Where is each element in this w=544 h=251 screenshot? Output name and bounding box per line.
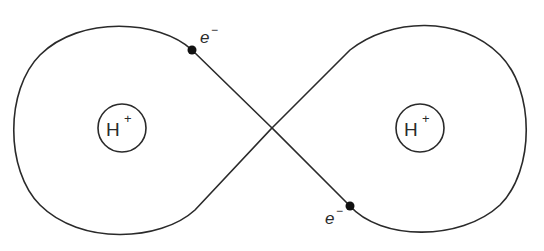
- right-nucleus: H +: [396, 104, 444, 152]
- hydrogen-molecule-diagram: H + H + e − e −: [0, 0, 544, 251]
- electron-dot-icon: [346, 202, 355, 211]
- left-nucleus-symbol: H: [106, 119, 120, 140]
- right-nucleus-charge: +: [422, 111, 430, 126]
- electron-bottom-right: e −: [325, 202, 355, 229]
- right-nucleus-symbol: H: [404, 119, 418, 140]
- electron-top-left-charge: −: [211, 23, 218, 37]
- electron-top-left: e −: [188, 23, 219, 55]
- electron-bottom-right-symbol: e: [325, 209, 334, 228]
- electron-top-left-symbol: e: [200, 28, 209, 47]
- figure-eight-orbit: [14, 25, 527, 234]
- electron-bottom-right-charge: −: [336, 204, 343, 218]
- electron-dot-icon: [188, 46, 197, 55]
- left-nucleus: H +: [98, 104, 146, 152]
- left-nucleus-charge: +: [124, 111, 132, 126]
